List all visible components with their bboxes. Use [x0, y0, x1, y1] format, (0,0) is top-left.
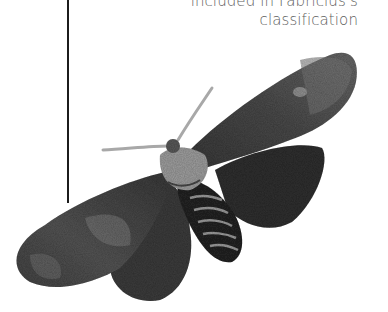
moth-antenna-right: [178, 88, 212, 140]
moth-illustration: [0, 0, 388, 312]
moth-antenna-left: [103, 146, 168, 150]
moth-head: [166, 139, 180, 153]
